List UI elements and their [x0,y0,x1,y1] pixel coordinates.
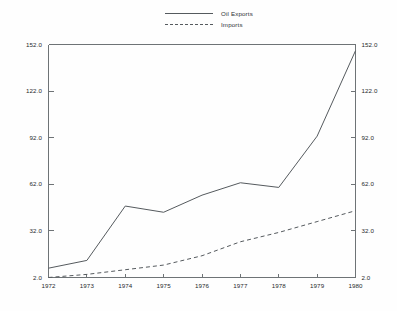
x-axis-tick-label: 1979 [299,282,335,289]
y-axis-left-tick-label: 62.0 [4,180,42,187]
x-axis-tick-label: 1974 [107,282,143,289]
axis-ticks [49,45,356,278]
x-axis-tick-label: 1973 [69,282,105,289]
y-axis-left-tick-label: 2.0 [4,274,42,281]
x-axis-tick-label: 1972 [31,282,67,289]
plot-area [0,0,397,311]
y-axis-right-tick-label: 122.0 [362,87,397,94]
series-line-imports [49,211,356,278]
x-axis-tick-label: 1978 [261,282,297,289]
y-axis-left-tick-label: 92.0 [4,134,42,141]
plot-frame [49,45,356,278]
chart-container: Oil Exports Imports 2.032.062.092.0122.0… [0,0,397,311]
y-axis-left-tick-label: 32.0 [4,227,42,234]
y-axis-right-tick-label: 152.0 [362,41,397,48]
x-axis-tick-label: 1980 [338,282,374,289]
y-axis-right-tick-label: 62.0 [362,180,397,187]
y-axis-left-tick-label: 152.0 [4,41,42,48]
y-axis-right-tick-label: 32.0 [362,227,397,234]
y-axis-right-tick-label: 92.0 [362,134,397,141]
data-series [49,51,356,278]
y-axis-right-tick-label: 2.0 [362,274,397,281]
y-axis-left-tick-label: 122.0 [4,87,42,94]
x-axis-tick-label: 1977 [222,282,258,289]
x-axis-tick-label: 1975 [146,282,182,289]
x-axis-tick-label: 1976 [184,282,220,289]
series-line-oil-exports [49,51,356,268]
